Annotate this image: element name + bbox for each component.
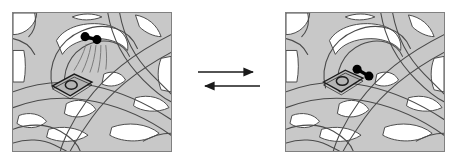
figure-canvas: unbound state: [0, 0, 452, 164]
atom: [92, 35, 101, 44]
equilibrium-arrows: ⇌ forward reverse: [196, 62, 262, 98]
atom: [81, 32, 90, 41]
atom: [353, 65, 362, 74]
equilibrium-arrow-pair: forward reverse: [196, 62, 262, 98]
atom: [364, 72, 373, 81]
bound-state-panel: bound state: [285, 12, 445, 152]
unbound-state-panel: unbound state: [12, 12, 172, 152]
unbound-state-illustration: [13, 13, 171, 151]
bound-state-illustration: [286, 13, 444, 151]
